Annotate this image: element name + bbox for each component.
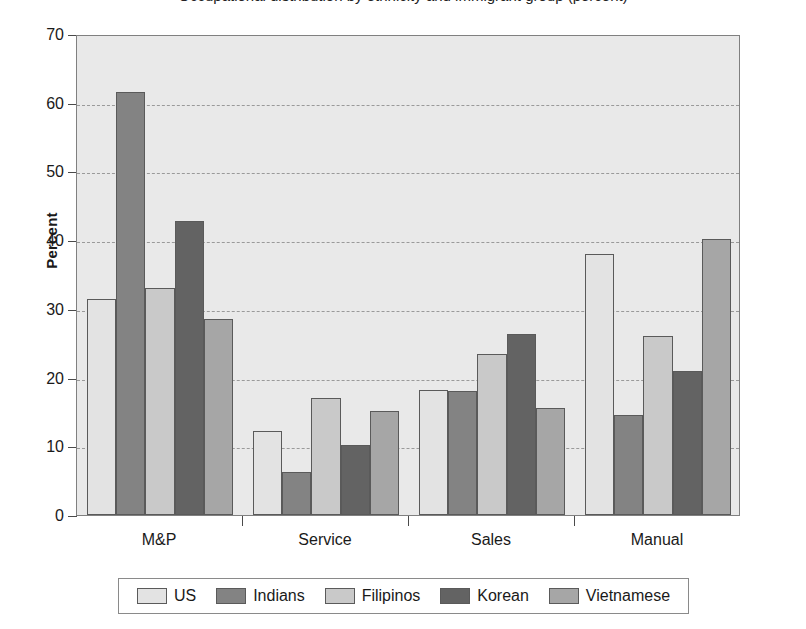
legend-item[interactable]: US xyxy=(137,588,196,604)
y-axis-tick-label: 50 xyxy=(18,164,64,180)
bar-group xyxy=(419,36,565,515)
y-axis-tick-label: 60 xyxy=(18,96,64,112)
bar xyxy=(448,391,477,515)
chart-legend: USIndiansFilipinosKoreanVietnamese xyxy=(118,578,689,614)
legend-label: Vietnamese xyxy=(586,588,670,604)
bar-chart-figure: Occupational distribution by ethnicity a… xyxy=(0,0,806,629)
y-axis-tick-label: 20 xyxy=(18,371,64,387)
legend-item[interactable]: Vietnamese xyxy=(549,588,670,604)
bar xyxy=(507,334,536,515)
bar xyxy=(614,415,643,515)
x-axis-tick-mark xyxy=(574,516,575,526)
bar xyxy=(477,354,506,515)
bar xyxy=(370,411,399,515)
y-axis-tick-mark xyxy=(68,516,77,517)
bar xyxy=(536,408,565,515)
bar xyxy=(585,254,614,515)
y-axis-tick-label: 30 xyxy=(18,302,64,318)
x-axis-tick-mark xyxy=(242,516,243,526)
legend-label: US xyxy=(174,588,196,604)
legend-swatch xyxy=(325,588,355,604)
bar xyxy=(702,239,731,515)
x-axis-tick-mark xyxy=(408,516,409,526)
legend-swatch xyxy=(137,588,167,604)
bar xyxy=(419,390,448,515)
bar xyxy=(175,221,204,515)
bar-group xyxy=(585,36,731,515)
bar xyxy=(204,319,233,515)
x-axis-category-label: M&P xyxy=(142,531,177,549)
y-axis-tick-label: 40 xyxy=(18,233,64,249)
x-axis-category-label: Sales xyxy=(471,531,511,549)
bar xyxy=(643,336,672,515)
y-axis-tick-label: 70 xyxy=(18,27,64,43)
x-axis-category-label: Service xyxy=(298,531,351,549)
bar xyxy=(341,445,370,515)
y-axis-tick-label: 0 xyxy=(18,508,64,524)
legend-item[interactable]: Indians xyxy=(216,588,305,604)
bar xyxy=(673,371,702,515)
bar-group xyxy=(253,36,399,515)
chart-title: Occupational distribution by ethnicity a… xyxy=(0,0,806,5)
legend-swatch xyxy=(440,588,470,604)
legend-item[interactable]: Filipinos xyxy=(325,588,421,604)
legend-label: Indians xyxy=(253,588,305,604)
x-axis-category-label: Manual xyxy=(631,531,683,549)
bar xyxy=(253,431,282,515)
legend-label: Filipinos xyxy=(362,588,421,604)
y-axis-tick-label: 10 xyxy=(18,439,64,455)
bar xyxy=(116,92,145,515)
legend-item[interactable]: Korean xyxy=(440,588,529,604)
legend-swatch xyxy=(549,588,579,604)
bar xyxy=(282,472,311,515)
bar xyxy=(145,288,174,515)
bar-group xyxy=(87,36,233,515)
legend-swatch xyxy=(216,588,246,604)
bar xyxy=(311,398,340,516)
legend-label: Korean xyxy=(477,588,529,604)
bar xyxy=(87,299,116,515)
plot-area xyxy=(76,35,740,516)
